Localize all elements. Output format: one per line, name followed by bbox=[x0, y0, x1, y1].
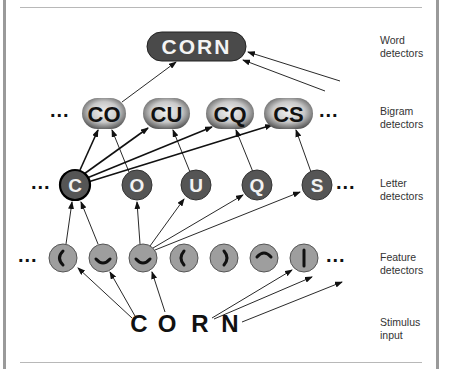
letter-detector-o: O bbox=[122, 170, 152, 200]
svg-text:C: C bbox=[68, 175, 82, 196]
feature-detector-bottom-curve-2 bbox=[129, 244, 157, 272]
feature-detector-left-curve bbox=[49, 244, 77, 272]
stimulus-letter-n: N bbox=[221, 310, 238, 337]
bigram-detector-cs: CS bbox=[264, 98, 313, 129]
letter-ellipsis-left: ... bbox=[31, 172, 51, 192]
bigram-detector-cu: CU bbox=[143, 98, 190, 129]
letter-ellipsis-right: ... bbox=[336, 172, 356, 192]
svg-text:CS: CS bbox=[273, 102, 304, 127]
label-letter-detectors: Letter detectors bbox=[380, 177, 423, 202]
feature-detector-bottom-curve bbox=[89, 244, 117, 272]
stimulus-input: C O R N bbox=[130, 310, 238, 337]
feature-detector-top-curve bbox=[250, 244, 278, 272]
stimulus-letter-r: R bbox=[191, 310, 208, 337]
bigram-detector-cq: CQ bbox=[206, 98, 254, 129]
svg-text:O: O bbox=[130, 175, 145, 196]
svg-text:CU: CU bbox=[151, 102, 183, 127]
feature-ellipsis-right: ... bbox=[326, 245, 346, 265]
label-bigram-detectors: Bigram detectors bbox=[380, 105, 423, 130]
feature-detectors bbox=[49, 244, 318, 272]
letter-detector-s: S bbox=[302, 170, 332, 200]
bigram-ellipsis-right: ... bbox=[319, 100, 339, 120]
stimulus-letter-c: C bbox=[130, 310, 147, 337]
bigram-detectors: CO CU CQ CS bbox=[82, 98, 313, 129]
bigram-detector-co: CO bbox=[82, 98, 126, 129]
svg-text:Q: Q bbox=[250, 175, 265, 196]
letter-detector-c: C bbox=[60, 170, 90, 200]
feature-detector-right-curve bbox=[210, 244, 238, 272]
feature-detector-vertical-line bbox=[290, 244, 318, 272]
feature-ellipsis-left: ... bbox=[18, 245, 38, 265]
label-feature-detectors: Feature detectors bbox=[380, 251, 423, 276]
letter-detector-u: U bbox=[181, 170, 211, 200]
stimulus-letter-o: O bbox=[158, 310, 177, 337]
letter-detector-q: Q bbox=[242, 170, 272, 200]
svg-text:CQ: CQ bbox=[214, 102, 247, 127]
feature-to-letter-arrows bbox=[66, 192, 300, 250]
svg-text:U: U bbox=[189, 175, 203, 196]
feature-detector-left-curve-2 bbox=[170, 244, 198, 272]
word-detector-corn: CORN bbox=[147, 32, 246, 61]
svg-text:CO: CO bbox=[88, 102, 121, 127]
word-detector-label: CORN bbox=[162, 35, 232, 58]
svg-text:S: S bbox=[311, 175, 324, 196]
label-word-detectors: Word detectors bbox=[380, 34, 423, 59]
bigram-ellipsis-left: ... bbox=[50, 100, 70, 120]
stimulus-to-feature-arrows bbox=[78, 268, 342, 322]
label-stimulus-input: Stimulus input bbox=[380, 316, 420, 341]
